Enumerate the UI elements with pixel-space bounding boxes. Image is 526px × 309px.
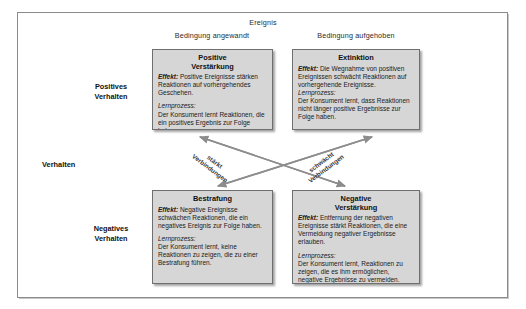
- effect-label: Effekt:: [298, 65, 318, 72]
- column-header-condition-applied: Bedingung angewandt: [152, 31, 272, 40]
- quadrant-process: Lernprozess:Der Konsument lernt, Reaktio…: [298, 252, 414, 284]
- process-label: Lernprozess:: [158, 235, 267, 243]
- effect-label: Effekt:: [158, 206, 178, 213]
- quadrant-body-extinction: Effekt: Die Wegnahme von positiven Ereig…: [298, 65, 414, 122]
- quadrant-punishment: Bestrafung Effekt: Negative Ereignisse s…: [152, 190, 273, 284]
- quadrant-effect: Effekt: Negative Ereignisse schwächen Re…: [158, 206, 267, 230]
- row-header-negative-line1: Negatives: [94, 224, 128, 233]
- process-label: Lernprozess:: [298, 252, 414, 260]
- quadrant-body-positive-reinforcement: Effekt: Positive Ereignisse stärken Reak…: [158, 73, 267, 130]
- quadrant-process: Lernprozess:Der Konsument lernt, dass Re…: [298, 89, 414, 121]
- quadrant-title-extinction: Extinktion: [298, 54, 414, 63]
- process-label: Lernprozess:: [158, 102, 267, 110]
- quadrant-body-negative-reinforcement: Effekt: Entfernung der negativen Ereigni…: [298, 214, 414, 284]
- row-header-positive-behavior: Positives Verhalten: [78, 82, 144, 101]
- effect-label: Effekt:: [158, 73, 178, 80]
- process-label: Lernprozess:: [298, 89, 414, 97]
- quadrant-extinction: Extinktion Effekt: Die Wegnahme von posi…: [292, 49, 420, 130]
- row-header-negative-behavior: Negatives Verhalten: [78, 224, 144, 243]
- diagram-canvas: Ereignis Bedingung angewandt Bedingung a…: [0, 0, 526, 309]
- quadrant-title-line2: Verstärkung: [191, 62, 234, 71]
- quadrant-positive-reinforcement: Positive Verstärkung Effekt: Positive Er…: [152, 49, 273, 130]
- quadrant-effect: Effekt: Entfernung der negativen Ereigni…: [298, 214, 414, 246]
- quadrant-effect: Effekt: Positive Ereignisse stärken Reak…: [158, 73, 267, 97]
- quadrant-title-negative-reinforcement: Negative Verstärkung: [298, 195, 414, 212]
- column-header-condition-removed: Bedingung aufgehoben: [292, 31, 420, 40]
- process-text: Der Konsument lernt Reaktionen, die ein …: [158, 111, 265, 130]
- quadrant-title-line1: Extinktion: [338, 53, 374, 62]
- process-text: Der Konsument lernt, dass Reaktionen nic…: [298, 97, 410, 120]
- quadrant-title-positive-reinforcement: Positive Verstärkung: [158, 54, 267, 71]
- row-header-negative-line2: Verhalten: [95, 234, 128, 243]
- row-header-positive-line2: Verhalten: [95, 92, 128, 101]
- axis-label-behavior: Verhalten: [42, 160, 75, 169]
- quadrant-body-punishment: Effekt: Negative Ereignisse schwächen Re…: [158, 206, 267, 268]
- quadrant-title-line2: Verstärkung: [335, 203, 378, 212]
- quadrant-effect: Effekt: Die Wegnahme von positiven Ereig…: [298, 65, 414, 89]
- process-text: Der Konsument lernt, Reaktionen zu zeige…: [298, 260, 403, 283]
- quadrant-process: Lernprozess:Der Konsument lernt, keine R…: [158, 235, 267, 267]
- process-text: Der Konsument lernt, keine Reaktionen zu…: [158, 243, 258, 266]
- row-header-positive-line1: Positives: [95, 82, 127, 91]
- quadrant-negative-reinforcement: Negative Verstärkung Effekt: Entfernung …: [292, 190, 420, 284]
- quadrant-process: Lernprozess:Der Konsument lernt Reaktion…: [158, 102, 267, 130]
- effect-label: Effekt:: [298, 214, 318, 221]
- quadrant-title-punishment: Bestrafung: [158, 195, 267, 204]
- diagram-top-title: Ereignis: [0, 18, 526, 27]
- quadrant-title-line1: Bestrafung: [193, 194, 232, 203]
